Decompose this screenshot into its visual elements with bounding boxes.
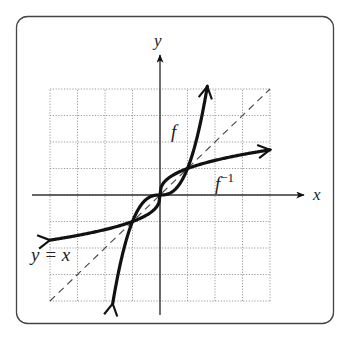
figure-frame	[17, 17, 334, 324]
graph-figure: x y f f−1 y = x	[0, 0, 339, 337]
f-inverse-label-sup: −1	[220, 170, 234, 185]
identity-line-label: y = x	[29, 244, 71, 265]
y-axis-label: y	[152, 31, 162, 50]
x-axis-label: x	[312, 185, 321, 204]
